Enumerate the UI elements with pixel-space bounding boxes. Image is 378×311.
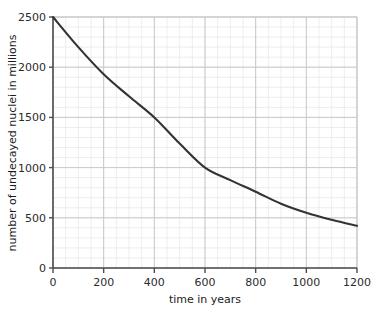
chart-background (0, 0, 378, 311)
x-tick-label: 1200 (343, 276, 371, 289)
y-tick-label: 2000 (18, 61, 46, 74)
chart-canvas: 05001000150020002500 0200400600800100012… (0, 0, 378, 311)
x-tick-label: 800 (245, 276, 266, 289)
x-tick-label: 0 (50, 276, 57, 289)
y-tick-label: 500 (25, 212, 46, 225)
x-axis-title: time in years (169, 293, 241, 306)
y-tick-label: 0 (39, 262, 46, 275)
x-tick-label: 1000 (292, 276, 320, 289)
x-tick-label: 600 (195, 276, 216, 289)
y-tick-label: 1000 (18, 162, 46, 175)
y-axis-title: number of undecayed nuclei in millions (6, 34, 19, 251)
y-tick-label: 2500 (18, 11, 46, 24)
x-tick-label: 400 (144, 276, 165, 289)
y-tick-label: 1500 (18, 111, 46, 124)
x-tick-label: 200 (93, 276, 114, 289)
decay-chart: 05001000150020002500 0200400600800100012… (0, 0, 378, 311)
